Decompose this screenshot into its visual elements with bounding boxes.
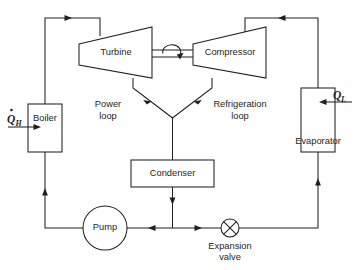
- schematic-canvas: Boiler Q H Evaporator Q L Turbine: [0, 0, 360, 270]
- pipe-compressor-to-junction: [179, 78, 212, 113]
- flow-arrow-to-expansion-valve: [195, 225, 203, 231]
- turbine-compressor-shaft: [152, 45, 193, 60]
- cycle-diagram: Boiler Q H Evaporator Q L Turbine: [0, 0, 360, 270]
- flow-arrow-boiler-to-turbine: [65, 15, 73, 21]
- pipe-condenser-outlet: [170, 187, 176, 228]
- expansion-valve-label-line2: valve: [219, 252, 241, 262]
- power-loop-label-line2: loop: [99, 111, 117, 121]
- boiler-label: Boiler: [33, 113, 57, 123]
- evaporator-label: Evaporator: [295, 136, 340, 146]
- condenser-label: Condenser: [150, 168, 195, 178]
- shaft-rotation-arrowhead: [177, 53, 184, 60]
- flow-arrow-to-evaporator: [315, 178, 321, 186]
- qh-dot-accent: [10, 109, 13, 112]
- qh-subscript: H: [15, 119, 23, 128]
- qh-symbol: Q: [7, 113, 15, 125]
- pipe-expansion-valve-to-evaporator: [239, 152, 321, 228]
- pump[interactable]: Pump: [83, 206, 127, 250]
- turbine[interactable]: Turbine: [79, 27, 152, 78]
- pipe-pump-to-boiler: [42, 152, 83, 228]
- expansion-valve[interactable]: Expansion valve: [208, 219, 251, 262]
- flow-arrow-condenser-outlet: [170, 198, 176, 206]
- compressor[interactable]: Compressor: [193, 27, 266, 78]
- refrigeration-loop-annotation: Refrigeration loop: [213, 99, 266, 121]
- pipe-condenser-to-expansion-valve: [173, 225, 222, 231]
- compressor-label: Compressor: [205, 47, 256, 57]
- power-loop-label-line1: Power: [95, 99, 121, 109]
- turbine-label: Turbine: [100, 47, 131, 57]
- flow-arrow-evaporator-to-compressor: [278, 15, 286, 21]
- pipe-junction-to-condenser: [166, 113, 179, 160]
- pump-label: Pump: [93, 222, 117, 232]
- boiler[interactable]: Boiler: [28, 104, 62, 152]
- pipe-condenser-to-pump: [127, 225, 173, 231]
- flow-arrow-to-pump: [148, 225, 156, 231]
- pipe-turbine-to-junction: [133, 78, 166, 113]
- expansion-valve-label-line1: Expansion: [208, 241, 251, 251]
- flow-arrow-pump-to-boiler: [42, 188, 48, 196]
- refrigeration-loop-label-line1: Refrigeration: [213, 99, 266, 109]
- refrigeration-loop-label-line2: loop: [231, 111, 249, 121]
- ql-subscript: L: [340, 95, 346, 104]
- condenser[interactable]: Condenser: [131, 160, 214, 187]
- power-loop-annotation: Power loop: [95, 99, 121, 121]
- boiler-body: [28, 104, 62, 152]
